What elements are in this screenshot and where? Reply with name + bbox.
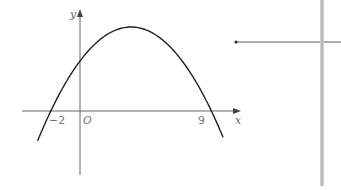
y-axis-label: y <box>69 8 77 21</box>
tick-label-neg2: −2 <box>49 114 65 127</box>
tick-label-9: 9 <box>198 114 205 127</box>
y-axis-arrow <box>77 9 83 17</box>
x-axis-label: x <box>235 114 242 127</box>
parabola-curve <box>38 27 223 141</box>
parabola-diagram: y x O −2 9 <box>0 0 341 190</box>
origin-label: O <box>83 114 92 127</box>
